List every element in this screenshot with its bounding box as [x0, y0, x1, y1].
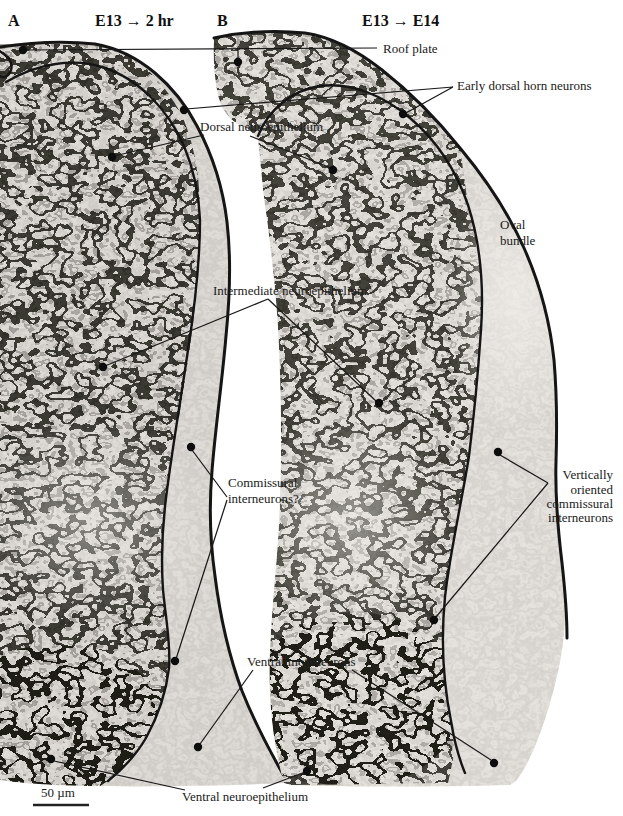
marker-dot	[108, 153, 116, 161]
marker-dot	[399, 110, 407, 118]
figure-canvas: A E13 → 2 hr B E13 → E14 Roof plate Earl…	[0, 0, 623, 816]
marker-dot	[19, 46, 27, 54]
panel-a-image	[0, 30, 300, 800]
marker-dot	[430, 616, 438, 624]
marker-dot	[47, 755, 55, 763]
marker-dot	[494, 448, 502, 456]
marker-dot	[171, 657, 179, 665]
early-dorsal-horn-label: Early dorsal horn neurons	[457, 78, 592, 93]
intermediate-neuroepithelium-label: Intermediate neuroepithelium	[213, 283, 367, 298]
roof-plate-label: Roof plate	[383, 41, 438, 56]
marker-dot	[187, 443, 195, 451]
scale-bar-label: 50 µm	[41, 785, 75, 800]
marker-dot	[329, 166, 337, 174]
oval-bundle-label: Oval	[500, 217, 526, 232]
oval-bundle-label: bundle	[500, 233, 536, 248]
commissural-interneurons-label: interneurons?	[228, 491, 299, 506]
ventral-neuroepithelium-label: Ventral neuroepithelium	[182, 789, 308, 804]
panel-b-letter: B	[217, 12, 228, 29]
marker-dot	[194, 743, 202, 751]
marker-dot	[375, 399, 383, 407]
marker-dot	[303, 767, 311, 775]
panel-b-condition: E13 → E14	[362, 12, 439, 29]
vertically-oriented-label: interneurons	[548, 510, 613, 525]
vertically-oriented-label: commissural	[547, 496, 614, 511]
ventral-motoneurons-label: Ventral motoneurons	[247, 654, 356, 669]
micrograph-figure: A E13 → 2 hr B E13 → E14 Roof plate Earl…	[0, 0, 623, 816]
commissural-interneurons-label: Commissural	[228, 475, 298, 490]
panel-a-letter: A	[8, 12, 20, 29]
dorsal-neuroepithelium-label: Dorsal neuroepithelium	[200, 119, 323, 134]
vertically-oriented-label: oriented	[570, 482, 613, 497]
marker-dot	[99, 363, 107, 371]
vertically-oriented-label: Vertically	[562, 467, 613, 482]
marker-dot	[234, 58, 242, 66]
marker-dot	[180, 106, 188, 114]
figure-header: A E13 → 2 hr B E13 → E14	[8, 12, 439, 29]
panel-a-condition: E13 → 2 hr	[95, 12, 174, 29]
scale-bar: 50 µm	[33, 785, 89, 805]
marker-dot	[490, 759, 498, 767]
